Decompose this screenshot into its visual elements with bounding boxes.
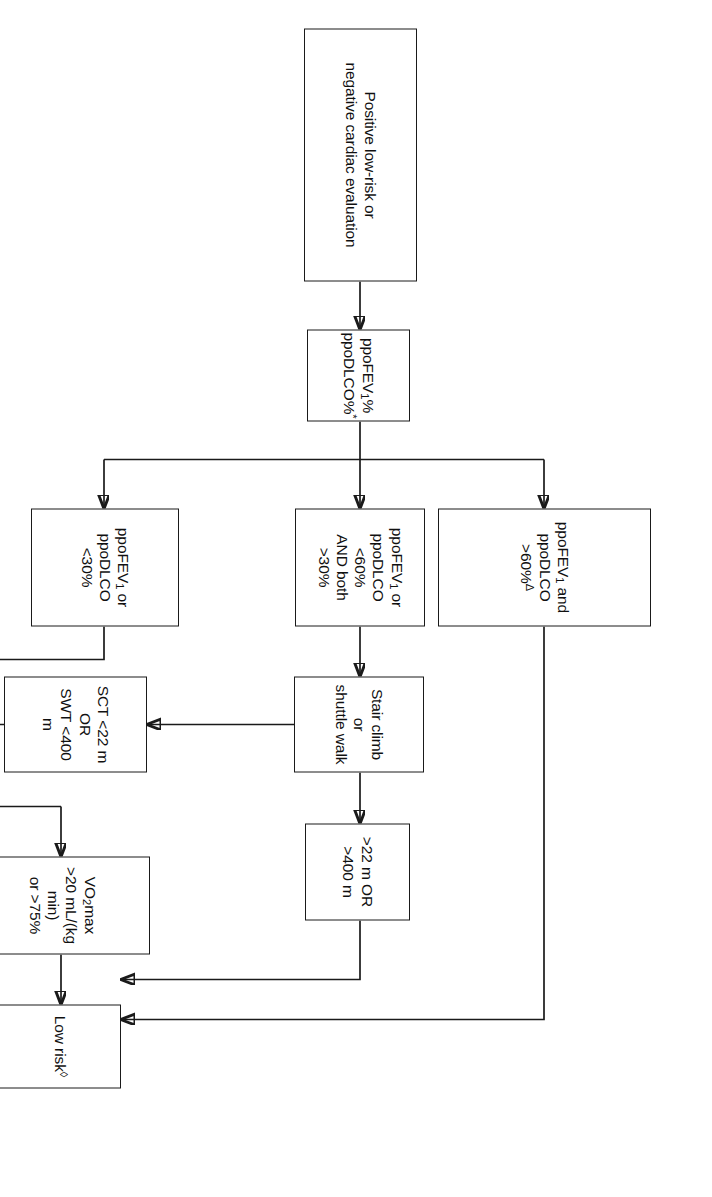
node-exercise-fail[interactable]: SCT <22 m ORSWT <400 m xyxy=(4,676,147,772)
node-vo2-high-label: VO2max>20 mL/(kg min)or >75% xyxy=(25,860,98,950)
flowchart-canvas: Positive low-risk ornegative cardiac eva… xyxy=(0,0,712,1197)
node-exercise-test-label: Stair climb orshuttle walk xyxy=(332,680,387,768)
node-branch-high-label: ppoFEV1 andppoDLCO >60%Δ xyxy=(517,512,572,622)
node-exercise-test[interactable]: Stair climb orshuttle walk xyxy=(294,676,424,772)
node-exercise-pass[interactable]: >22 m OR>400 m xyxy=(305,823,410,920)
node-branch-low[interactable]: ppoFEV1 orppoDLCO <30% xyxy=(31,508,179,626)
node-risk-low-label: Low risk◊ xyxy=(51,1015,69,1076)
node-exercise-pass-label: >22 m OR>400 m xyxy=(339,836,376,906)
node-branch-low-label: ppoFEV1 orppoDLCO <30% xyxy=(78,512,133,622)
node-start-low-risk[interactable]: Positive low-risk ornegative cardiac eva… xyxy=(304,28,417,281)
node-risk-low[interactable]: Low risk◊ xyxy=(0,1004,121,1088)
figure-rotation-wrapper: Positive low-risk ornegative cardiac eva… xyxy=(0,0,712,1197)
edge-pass-to-low-risk xyxy=(121,920,360,979)
node-exercise-fail-label: SCT <22 m ORSWT <400 m xyxy=(39,680,112,768)
node-lung-function[interactable]: ppoFEV1%ppoDLCO%* xyxy=(307,329,410,421)
node-lung-function-label: ppoFEV1%ppoDLCO%* xyxy=(340,332,377,418)
edge-branch-low-to-cpet xyxy=(0,626,104,676)
node-start-low-risk-label: Positive low-risk ornegative cardiac eva… xyxy=(342,62,379,247)
node-branch-mid[interactable]: ppoFEV1 orppoDLCO <60%AND both >30% xyxy=(295,508,425,626)
node-branch-mid-label: ppoFEV1 orppoDLCO <60%AND both >30% xyxy=(314,512,405,622)
node-vo2-high[interactable]: VO2max>20 mL/(kg min)or >75% xyxy=(0,856,150,954)
node-branch-high[interactable]: ppoFEV1 andppoDLCO >60%Δ xyxy=(438,508,651,626)
